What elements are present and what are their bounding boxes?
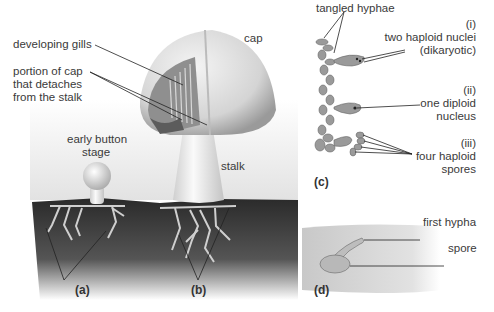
label-stage-i: (i) (466, 18, 476, 31)
label-cap-portion-2: that detaches (13, 78, 82, 91)
label-developing-gills: developing gills (13, 38, 92, 51)
label-early-button-1: early button (67, 133, 127, 146)
label-cap: cap (244, 32, 263, 45)
tangled-hyphae-art (315, 39, 365, 156)
label-first-hypha: first hypha (423, 216, 476, 229)
label-tangled-hyphae: tangled hyphae (316, 2, 395, 15)
label-stage-ii: (ii) (463, 84, 476, 97)
label-stage-iii: (iii) (461, 137, 476, 150)
label-spore: spore (448, 242, 477, 255)
panel-label-d: (d) (314, 283, 329, 297)
panel-label-c: (c) (314, 175, 329, 189)
label-stage-i-dikaryotic: (dikaryotic) (420, 44, 476, 57)
panel-label-a: (a) (75, 283, 90, 297)
label-stage-ii-text: one diploid (420, 97, 476, 110)
label-stalk: stalk (221, 160, 245, 173)
label-stage-iii-text: four haploid (416, 150, 476, 163)
label-stage-i-text: two haploid nuclei (385, 31, 476, 44)
label-cap-portion-3: from the stalk (13, 91, 82, 104)
panel-label-b: (b) (191, 283, 206, 297)
label-early-button-2: stage (82, 146, 110, 159)
label-stage-ii-nucleus: nucleus (436, 110, 476, 123)
label-stage-iii-spores: spores (441, 163, 476, 176)
label-cap-portion-1: portion of cap (13, 65, 83, 78)
mushroom-diagram: developing gills portion of cap that det… (0, 0, 494, 312)
